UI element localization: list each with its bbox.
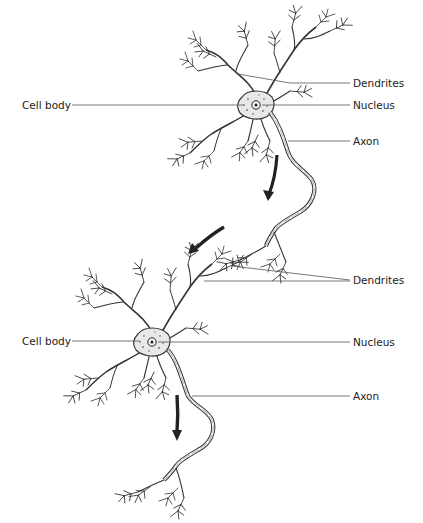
signal-arrow-2 (188, 227, 224, 254)
neuron-2 (62, 239, 350, 522)
neuron-1-axon (215, 112, 315, 285)
neuron-2-cell (62, 239, 250, 407)
neuron-1 (72, 2, 354, 286)
label-axon-2: Axon (353, 390, 379, 402)
signal-arrow-3 (172, 395, 182, 441)
label-cell-body-2: Cell body (22, 335, 71, 347)
neuron-1-cell (166, 2, 354, 170)
leader-line-dendrites-2a (232, 266, 350, 280)
signal-arrow-1 (263, 155, 277, 201)
label-nucleus-1: Nucleus (353, 99, 395, 111)
label-cell-body-1: Cell body (22, 99, 71, 111)
neuron-diagram: Cell body Dendrites Nucleus Axon Cell bo… (0, 0, 423, 523)
label-dendrites-1: Dendrites (353, 77, 404, 89)
label-axon-1: Axon (353, 135, 379, 147)
neuron-2-axon (113, 350, 214, 521)
label-dendrites-2: Dendrites (353, 274, 404, 286)
label-nucleus-2: Nucleus (353, 336, 395, 348)
